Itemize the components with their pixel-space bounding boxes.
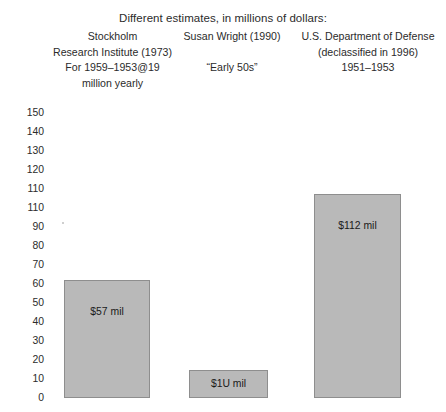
plot-area: 150 140 130 120 110 110 90 80 70 60 50 4… — [0, 0, 446, 412]
bar-value-label: $57 mil — [65, 306, 149, 317]
y-tick-label: 90 — [12, 222, 44, 232]
bar-stockholm[interactable]: $57 mil — [64, 280, 150, 398]
bar-value-label: $1U mil — [190, 378, 267, 389]
y-tick-label: 150 — [12, 108, 44, 118]
bar-susan-wright[interactable]: $1U mil — [189, 370, 268, 398]
bar-dod[interactable]: $112 mil — [314, 194, 401, 398]
y-tick-label: 80 — [12, 241, 44, 251]
y-tick-label: 110 — [12, 203, 44, 213]
y-tick-label: 110 — [12, 184, 44, 194]
y-tick-label: 10 — [12, 374, 44, 384]
y-tick-label: 40 — [12, 317, 44, 327]
chart-page: Different estimates, in millions of doll… — [0, 0, 446, 412]
y-tick-label: 60 — [12, 279, 44, 289]
y-tick-label: 30 — [12, 336, 44, 346]
y-axis-ticks: 150 140 130 120 110 110 90 80 70 60 50 4… — [12, 0, 44, 412]
y-tick-label: 0 — [12, 393, 44, 403]
scan-speck — [62, 222, 64, 224]
y-tick-label: 70 — [12, 260, 44, 270]
y-tick-label: 130 — [12, 146, 44, 156]
y-tick-label: 50 — [12, 298, 44, 308]
bar-value-label: $112 mil — [315, 220, 400, 231]
y-tick-label: 140 — [12, 127, 44, 137]
y-tick-label: 20 — [12, 355, 44, 365]
y-tick-label: 120 — [12, 165, 44, 175]
